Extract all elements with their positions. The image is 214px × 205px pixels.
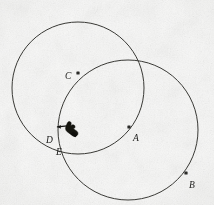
paper-fine-grain (0, 0, 214, 205)
point-label-e: E (56, 148, 62, 158)
point-label-d: D (46, 136, 53, 146)
point-label-c: C (65, 72, 71, 82)
geometry-diagram (0, 0, 214, 205)
point-label-a: A (133, 134, 139, 144)
figure-canvas: ABCDE (0, 0, 214, 205)
point-label-b: B (189, 181, 195, 191)
